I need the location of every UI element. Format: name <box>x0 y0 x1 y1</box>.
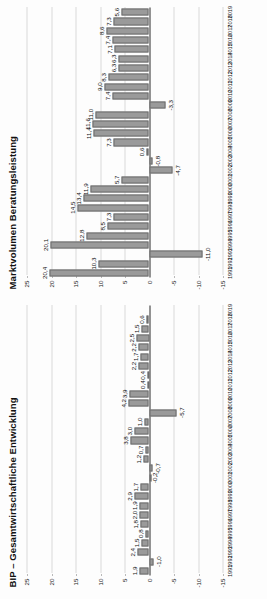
chart-marktvolumen-beratungsleistung: Marktvolumen Beratungsleistung 252015105… <box>4 3 263 299</box>
y-axis-tick-label: 20 <box>47 578 54 585</box>
bar-value-label: 8,6 <box>97 26 104 35</box>
bar <box>50 241 148 248</box>
bar <box>113 138 149 145</box>
bar-value-label: 6,3 <box>109 54 116 63</box>
bar <box>149 157 153 164</box>
bar <box>138 362 149 369</box>
y-axis-tick-label: -5 <box>170 578 177 584</box>
bar-column: -0,2 <box>26 473 222 482</box>
y-axis-tick-label: -15 <box>219 578 226 587</box>
bar-value-label: -4,7 <box>173 165 180 176</box>
bar-column: 0,4 <box>26 380 222 389</box>
bar-value-label: 6,3 <box>109 63 116 72</box>
bar-column: 1,7 <box>26 352 222 361</box>
bar-column: 8,6 <box>26 26 222 35</box>
chart-title: BIP – Gesamtwirtschaftliche Entwicklung <box>6 397 17 587</box>
y-axis-tick-label: 15 <box>72 578 79 585</box>
bar <box>149 558 154 565</box>
bar <box>140 520 149 527</box>
x-axis-labels: 1991199219931994199519961997199819992000… <box>226 7 238 277</box>
bar-value-label: 2,0 <box>130 510 137 519</box>
bar <box>141 325 148 332</box>
chart-title: Marktvolumen Beratungsleistung <box>6 136 17 289</box>
bar-value-label: 1,7 <box>131 352 138 361</box>
bar-column: 9,0 <box>26 82 222 91</box>
bar <box>104 83 148 90</box>
bar <box>112 92 148 99</box>
bar-column: -0,7 <box>26 463 222 472</box>
bar <box>92 120 149 127</box>
bar-value-label: 1,9 <box>130 566 137 575</box>
bar-column: 2,2 <box>26 361 222 370</box>
bar-column: 5,7 <box>26 175 222 184</box>
bar-column: 1,9 <box>26 501 222 510</box>
bar <box>121 8 148 15</box>
y-axis-tick-label: 10 <box>96 280 103 287</box>
bar-value-label: 11,0 <box>86 108 93 120</box>
bar-value-label: 2,2 <box>129 361 136 370</box>
y-axis-tick-label: 0 <box>145 280 152 283</box>
y-axis-tick-label: 5 <box>121 578 128 581</box>
bar <box>149 409 177 416</box>
bar-value-label: 4,2 <box>119 398 126 407</box>
bar-value-label: -1,0 <box>154 556 161 567</box>
bar <box>141 539 148 546</box>
bar-column: 12,8 <box>26 230 222 239</box>
bar-column: 7,4 <box>26 91 222 100</box>
bar-value-label: 7,4 <box>103 35 110 44</box>
bar-column: 2,5 <box>26 333 222 342</box>
x-axis-tick-label: 2019 <box>226 5 232 17</box>
bar-column: 3,0 <box>26 426 222 435</box>
bar-column: 7,1 <box>26 44 222 53</box>
bar-value-label: 2,2 <box>129 343 136 352</box>
scanned-figure-page: BIP – Gesamtwirtschaftliche Entwicklung … <box>0 0 267 599</box>
bar-column: -0,8 <box>26 156 222 165</box>
bar <box>93 129 149 136</box>
bar <box>129 390 148 397</box>
bar-column: 20,1 <box>26 240 222 249</box>
bar-column: 20,4 <box>26 268 222 277</box>
bar-column: -5,7 <box>26 407 222 416</box>
y-axis-tick-label: -5 <box>170 280 177 286</box>
bar <box>83 194 149 201</box>
bar-column: -3,3 <box>26 100 222 109</box>
plot-area: 2520151050-5-10-15 20,410,3-11,020,112,8… <box>26 7 222 277</box>
bar-value-label: 2,4 <box>128 547 135 556</box>
bar <box>147 381 149 388</box>
bar-value-label: 5,6 <box>112 7 119 16</box>
bar-value-label: 0,8 <box>136 529 143 538</box>
bar-column: 0,4 <box>26 370 222 379</box>
bar <box>130 436 149 443</box>
bar-value-label: 0,4 <box>138 371 145 380</box>
rotated-figure-canvas: BIP – Gesamtwirtschaftliche Entwicklung … <box>0 0 267 599</box>
bar <box>149 101 165 108</box>
bar-column: -11,0 <box>26 249 222 258</box>
bar-column: 7,3 <box>26 16 222 25</box>
y-axis-tick-label: 20 <box>47 280 54 287</box>
bar-column: 1,5 <box>26 324 222 333</box>
bar-column: 2,9 <box>26 491 222 500</box>
bar-value-label: 3,8 <box>121 436 128 445</box>
y-axis-tick-label: 25 <box>23 280 30 287</box>
bar-value-label: 1,2 <box>134 454 141 463</box>
bar-value-label: 2,5 <box>127 333 134 342</box>
bar-column: 3,8 <box>26 435 222 444</box>
bar <box>149 250 203 257</box>
bar-column: 0,7 <box>26 445 222 454</box>
bar <box>77 204 148 211</box>
bar-value-label: -3,3 <box>166 99 173 110</box>
bar-value-label: 7,3 <box>104 17 111 26</box>
bar-column: 2,0 <box>26 510 222 519</box>
bar <box>90 185 148 192</box>
bar-column: 6,3 <box>26 54 222 63</box>
bar-value-label: 9,0 <box>95 82 102 91</box>
bar-column: 1,7 <box>26 482 222 491</box>
bar-value-label: 5,7 <box>112 175 119 184</box>
y-axis-tick-label: -10 <box>194 280 201 289</box>
bar-column: 4,2 <box>26 398 222 407</box>
bar <box>95 111 149 118</box>
bar <box>112 36 148 43</box>
bar-value-label: 1,8 <box>131 520 138 529</box>
y-axis-tick-label: 10 <box>96 578 103 585</box>
bar <box>139 502 148 509</box>
